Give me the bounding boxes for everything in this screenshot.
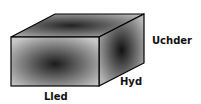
cuboid-diagram <box>0 0 201 104</box>
width-label: Lled <box>44 91 68 102</box>
front-face <box>11 37 99 86</box>
height-label: Uchder <box>152 35 192 46</box>
length-label: Hyd <box>120 76 142 87</box>
